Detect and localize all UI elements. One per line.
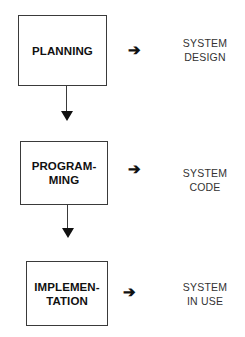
down-arrow-icon bbox=[61, 111, 73, 121]
stage-box-implementation: IMPLEMEN- TATION bbox=[26, 261, 108, 326]
stage-label-planning: PLANNING bbox=[32, 44, 93, 58]
right-arrow-icon: ➔ bbox=[123, 284, 136, 299]
stage-output-in-use: SYSTEM IN USE bbox=[170, 280, 240, 308]
stage-output-code: SYSTEM CODE bbox=[170, 166, 240, 194]
stage-box-planning: PLANNING bbox=[18, 15, 107, 86]
down-arrow-icon bbox=[62, 228, 74, 238]
right-arrow-icon: ➔ bbox=[128, 161, 141, 176]
stage-output-design: SYSTEM DESIGN bbox=[170, 36, 240, 64]
right-arrow-icon: ➔ bbox=[128, 42, 141, 57]
stage-box-programming: PROGRAM- MING bbox=[20, 141, 108, 205]
connector-line bbox=[66, 86, 67, 114]
stage-label-implementation: IMPLEMEN- TATION bbox=[34, 280, 99, 308]
stage-label-programming: PROGRAM- MING bbox=[32, 159, 97, 187]
